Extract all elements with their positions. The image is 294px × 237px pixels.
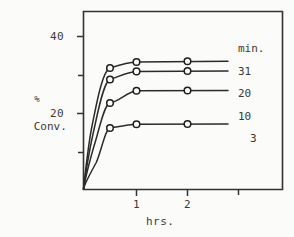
x-axis-tick-label-1: 1 [133, 198, 140, 211]
series-curves [84, 61, 229, 189]
x-axis-title: hrs. [146, 215, 175, 228]
legend: min. 31 20 10 3 [238, 38, 290, 151]
y-axis-title: % Conv. [6, 64, 68, 148]
chart-page: 40 20 % Conv. 1 2 hrs. min. 31 20 10 3 [0, 0, 294, 237]
marker-3-1h [133, 121, 140, 128]
marker-3-2h [184, 121, 191, 128]
legend-item-31: 31 [238, 61, 290, 84]
marker-31-1h [133, 59, 140, 66]
marker-10-0.5h [107, 100, 114, 107]
legend-item-10: 10 [238, 106, 290, 129]
marker-20-1h [133, 68, 140, 75]
marker-20-2h [184, 68, 191, 75]
x-axis-tick-label-2: 2 [184, 198, 191, 211]
marker-10-2h [184, 87, 191, 94]
marker-31-2h [184, 58, 191, 65]
series-curve-3 [84, 124, 229, 189]
legend-item-3: 3 [238, 128, 290, 151]
series-curve-10 [84, 91, 229, 190]
data-markers [107, 58, 191, 131]
legend-title: min. [238, 38, 290, 61]
marker-31-0.5h [107, 65, 114, 72]
marker-20-0.5h [107, 76, 114, 83]
legend-item-20: 20 [238, 83, 290, 106]
marker-3-0.5h [107, 125, 114, 132]
series-curve-20 [84, 71, 229, 189]
marker-10-1h [133, 88, 140, 95]
y-axis-title-percent: % [6, 92, 68, 106]
series-curve-31 [84, 61, 229, 189]
y-axis-tick-label-40: 40 [50, 30, 64, 43]
y-axis-title-conv: Conv. [34, 120, 67, 133]
